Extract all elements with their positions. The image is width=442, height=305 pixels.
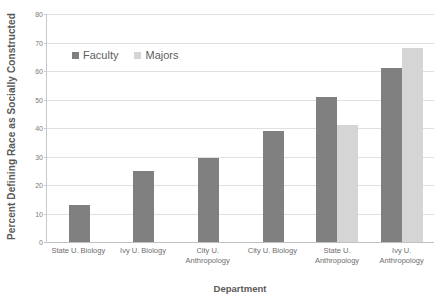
bar-chart: Percent Defining Race as Socially Constr…: [0, 0, 442, 305]
y-axis-tick-labels: 01020304050607080: [22, 14, 46, 242]
bar-faculty: [263, 131, 284, 242]
x-axis-tick-label: City U.Anthropology: [175, 246, 240, 266]
y-axis-tick-label: 70: [23, 39, 43, 46]
bar-majors: [337, 125, 358, 242]
bar-majors: [402, 48, 423, 242]
x-axis-tick-label-line: City U. Biology: [240, 246, 305, 256]
bar-faculty: [69, 205, 90, 242]
x-axis-tick-label-line: State U.: [305, 246, 370, 256]
gridline: [47, 242, 434, 243]
x-axis-tick-label-line: Anthropology: [175, 256, 240, 266]
legend-label-majors: Majors: [145, 50, 178, 61]
x-axis-tick-label: Ivy U.Anthropology: [369, 246, 434, 266]
x-axis-tick-label-line: State U. Biology: [46, 246, 111, 256]
y-axis-title: Percent Defining Race as Socially Constr…: [0, 0, 22, 252]
bar-faculty: [133, 171, 154, 242]
x-axis-tick-label: State U. Biology: [46, 246, 111, 256]
y-axis-tick-label: 20: [23, 182, 43, 189]
x-axis-tick-label: City U. Biology: [240, 246, 305, 256]
x-axis-tick-label-line: Ivy U. Biology: [111, 246, 176, 256]
x-axis-title: Department: [46, 283, 434, 294]
x-axis-tick-label-line: City U.: [175, 246, 240, 256]
legend-swatch-faculty-icon: [72, 52, 79, 59]
x-axis-tick-label: Ivy U. Biology: [111, 246, 176, 256]
y-axis-tick-label: 10: [23, 210, 43, 217]
chart-legend: Faculty Majors: [72, 50, 178, 61]
y-axis-tickmark: [44, 242, 47, 243]
y-axis-tick-label: 80: [23, 11, 43, 18]
legend-entry-majors: Majors: [134, 50, 178, 61]
bar-group: [176, 14, 241, 242]
x-axis-tick-label-line: Anthropology: [369, 256, 434, 266]
y-axis-tick-label: 0: [23, 239, 43, 246]
x-axis-tick-label-line: Anthropology: [305, 256, 370, 266]
y-axis-tick-label: 50: [23, 96, 43, 103]
bar-group: [370, 14, 435, 242]
y-axis-tick-label: 40: [23, 125, 43, 132]
x-axis-tick-labels: State U. BiologyIvy U. BiologyCity U.Ant…: [46, 246, 434, 282]
legend-label-faculty: Faculty: [83, 50, 118, 61]
bar-faculty: [198, 158, 219, 242]
y-axis-tick-label: 60: [23, 68, 43, 75]
bar-faculty: [381, 68, 402, 242]
bar-group: [241, 14, 306, 242]
bar-group: [306, 14, 371, 242]
legend-entry-faculty: Faculty: [72, 50, 118, 61]
y-axis-tick-label: 30: [23, 153, 43, 160]
y-axis-title-text: Percent Defining Race as Socially Constr…: [6, 13, 17, 240]
legend-swatch-majors-icon: [134, 52, 141, 59]
x-axis-tick-label-line: Ivy U.: [369, 246, 434, 256]
bar-faculty: [316, 97, 337, 242]
x-axis-tick-label: State U.Anthropology: [305, 246, 370, 266]
